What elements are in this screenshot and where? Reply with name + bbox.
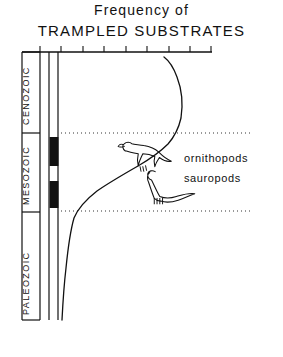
axis-tick-marks [40,46,211,52]
era-label-mesozoic: MESOZOIC [21,146,31,205]
trampled-substrates-figure: Frequency of TRAMPLED SUBSTRATES [0,0,283,357]
era-label-paleozoic: PALEOZOIC [21,252,31,315]
frequency-curve [62,57,182,320]
era-label-cenozoic: CENOZOIC [21,66,31,125]
taxon-label-ornithopods: ornithopods [184,152,248,164]
ornithopod-range-bar [50,137,59,166]
frequency-axis [22,46,212,52]
occurrence-range-bars [50,137,59,208]
sauropod-range-bar [50,181,59,208]
ornithopod-silhouette-icon [118,142,171,171]
taxon-label-sauropods: sauropods [184,172,241,184]
